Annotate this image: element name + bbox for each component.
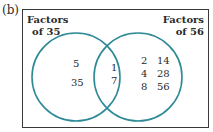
left-set-title: Factors of 35 xyxy=(27,14,68,38)
right-only-value: 2 xyxy=(141,54,147,67)
right-only-value: 56 xyxy=(157,80,170,93)
left-title-line1: Factors xyxy=(27,14,68,26)
right-only-value: 28 xyxy=(157,67,170,80)
right-title-line2: of 56 xyxy=(163,26,204,38)
right-only-value: 14 xyxy=(157,54,170,67)
left-only-value: 35 xyxy=(71,76,84,89)
left-only-value: 5 xyxy=(73,57,79,70)
left-title-line2: of 35 xyxy=(27,26,68,38)
right-only-value: 8 xyxy=(141,80,147,93)
intersection-value: 1 xyxy=(111,61,117,74)
right-title-line1: Factors xyxy=(163,14,204,26)
right-set-title: Factors of 56 xyxy=(163,14,204,38)
intersection-value: 7 xyxy=(111,74,117,87)
right-only-value: 4 xyxy=(141,67,147,80)
